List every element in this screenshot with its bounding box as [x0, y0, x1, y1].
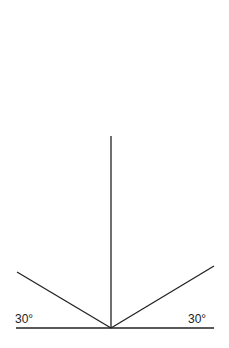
right-angle-label: 30° — [188, 312, 206, 326]
left-angle-label: 30° — [15, 312, 33, 326]
angle-diagram: 30° 30° — [0, 0, 229, 348]
